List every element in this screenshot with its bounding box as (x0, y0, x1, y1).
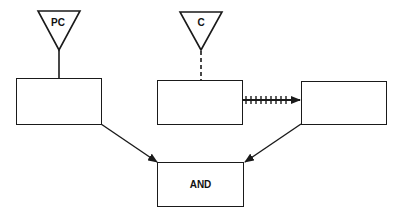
c-label: C (191, 17, 211, 28)
middle-box (157, 80, 243, 125)
right-box (301, 81, 387, 125)
arrow-left-to-and (101, 124, 157, 162)
arrow-right-to-and (245, 124, 301, 162)
pc-label: PC (48, 17, 68, 28)
and-box: AND (157, 162, 244, 207)
left-box (16, 78, 102, 125)
